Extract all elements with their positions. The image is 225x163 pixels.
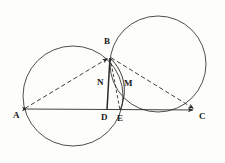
segment-AC [27,109,193,110]
point-label-M: M [124,79,133,88]
right-circle [110,16,206,112]
point-label-E: E [117,114,123,123]
point-label-C: C [199,112,206,121]
point-label-N: N [97,78,104,87]
point-label-D: D [101,113,108,122]
segment-BD [107,58,110,110]
point-label-A: A [13,111,20,120]
segment-AB [25,59,108,109]
diagram-canvas [0,0,225,163]
geometry-diagram: A B C D E M N [0,0,225,163]
segment-BE [110,58,120,110]
point-label-B: B [104,37,110,46]
